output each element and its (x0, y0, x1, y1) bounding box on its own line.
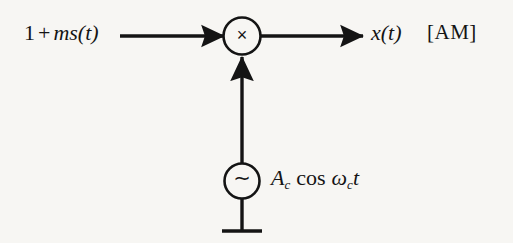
input-signal-label: 1+ms(t) (24, 22, 99, 44)
multiply-symbol-icon: × (223, 26, 261, 44)
carrier-amplitude-subscript: c (284, 177, 290, 192)
message-signal: s(t) (69, 20, 98, 45)
sine-source-symbol-icon: ∼ (224, 168, 260, 189)
output-signal-label: x(t) (371, 22, 402, 44)
time-variable: t (353, 165, 359, 190)
modulation-type-tag: [AM] (427, 22, 477, 43)
modulation-index: m (53, 20, 69, 45)
input-operator: + (35, 20, 53, 45)
carrier-omega: ω (332, 165, 348, 190)
input-constant: 1 (24, 20, 35, 45)
am-modulator-figure: × ∼ 1+ms(t) x(t) [AM] Accosωct (0, 0, 513, 243)
carrier-amplitude: A (271, 165, 284, 190)
cosine-function: cos (296, 165, 325, 190)
carrier-omega-subscript: c (347, 177, 353, 192)
carrier-signal-label: Accosωct (271, 167, 359, 189)
